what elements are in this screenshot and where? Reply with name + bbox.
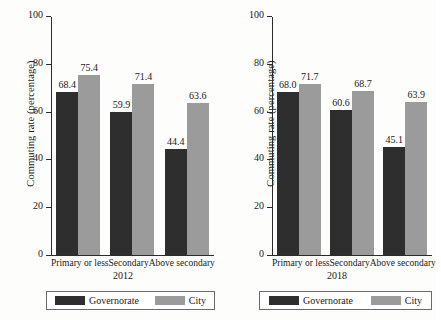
bar-column[interactable]: 44.4 <box>165 17 187 255</box>
bar-column[interactable]: 59.9 <box>110 17 132 255</box>
x-axis-category-label: Primary or less <box>51 258 109 268</box>
y-axis-tick-label: 60 <box>254 105 264 116</box>
legend-2012: GovernorateCity <box>46 291 215 310</box>
bar-governorate[interactable] <box>110 112 132 255</box>
y-axis-tick-label: 0 <box>38 248 43 259</box>
legend-label: City <box>189 295 206 306</box>
bar-value-label: 63.9 <box>408 89 426 100</box>
bar-column[interactable]: 75.4 <box>78 17 100 255</box>
bar-value-label: 60.6 <box>332 97 350 108</box>
bar-column[interactable]: 71.4 <box>132 17 154 255</box>
bar-group: 60.668.7 <box>330 17 374 255</box>
bar-value-label: 45.1 <box>386 134 404 145</box>
bar-value-label: 63.6 <box>189 90 207 101</box>
x-axis-category-label: Primary or less <box>272 258 330 268</box>
legend-label: Governorate <box>303 295 353 306</box>
legend-item-governorate[interactable]: Governorate <box>55 295 139 306</box>
y-axis-tick-label: 100 <box>28 9 43 20</box>
bar-value-label: 59.9 <box>113 99 131 110</box>
y-axis-tick-label: 40 <box>254 152 264 163</box>
x-axis-category-label: Above secondary <box>149 258 215 268</box>
bar-value-label: 75.4 <box>80 62 98 73</box>
y-axis-tick-label: 60 <box>33 105 43 116</box>
bar-column[interactable]: 68.7 <box>352 17 374 255</box>
bar-column[interactable]: 63.6 <box>187 17 209 255</box>
bar-groups: 68.475.459.971.444.463.6 <box>51 17 214 255</box>
bar-value-label: 71.7 <box>301 71 319 82</box>
legend-swatch-icon <box>155 296 185 305</box>
y-axis-tick: 0 <box>46 255 51 256</box>
y-axis-tick-label: 20 <box>33 200 43 211</box>
bar-governorate[interactable] <box>277 92 299 255</box>
x-axis-title: 2012 <box>14 270 232 281</box>
legend-item-city[interactable]: City <box>371 295 422 306</box>
x-axis-line <box>51 255 214 256</box>
legend-swatch-icon <box>55 296 85 305</box>
y-axis-tick-label: 80 <box>33 57 43 68</box>
x-axis-category-labels: Primary or lessSecondaryAbove secondary <box>51 258 214 268</box>
bar-city[interactable] <box>187 103 209 255</box>
bar-value-label: 68.4 <box>58 79 76 90</box>
x-axis-category-label: Secondary <box>109 258 149 268</box>
bar-city[interactable] <box>405 102 427 255</box>
legend-label: City <box>405 295 422 306</box>
y-axis-tick-label: 20 <box>254 200 264 211</box>
y-axis-tick-label: 100 <box>249 9 264 20</box>
x-axis-line <box>272 255 432 256</box>
bar-city[interactable] <box>299 84 321 255</box>
bar-value-label: 71.4 <box>135 71 153 82</box>
y-axis-tick-label: 0 <box>259 248 264 259</box>
bar-group: 68.071.7 <box>277 17 321 255</box>
bar-governorate[interactable] <box>383 147 405 255</box>
bar-group: 59.971.4 <box>110 17 154 255</box>
bar-column[interactable]: 68.4 <box>56 17 78 255</box>
bar-governorate[interactable] <box>56 92 78 255</box>
bar-column[interactable]: 60.6 <box>330 17 352 255</box>
bar-column[interactable]: 63.9 <box>405 17 427 255</box>
legend-item-governorate[interactable]: Governorate <box>269 295 353 306</box>
bar-city[interactable] <box>352 91 374 255</box>
bar-governorate[interactable] <box>330 110 352 255</box>
legend-item-city[interactable]: City <box>155 295 206 306</box>
bar-value-label: 44.4 <box>167 136 185 147</box>
y-axis-tick-label: 80 <box>254 57 264 68</box>
x-axis-title: 2018 <box>228 270 441 281</box>
bar-column[interactable]: 45.1 <box>383 17 405 255</box>
y-axis-tick-label: 40 <box>33 152 43 163</box>
x-axis-category-label: Above secondary <box>370 258 436 268</box>
x-axis-category-label: Secondary <box>330 258 370 268</box>
bar-governorate[interactable] <box>165 149 187 255</box>
legend-2018: GovernorateCity <box>259 291 432 310</box>
bar-column[interactable]: 71.7 <box>299 17 321 255</box>
legend-label: Governorate <box>89 295 139 306</box>
x-axis-category-labels: Primary or lessSecondaryAbove secondary <box>272 258 432 268</box>
legend-swatch-icon <box>371 296 401 305</box>
y-axis-tick: 0 <box>267 255 272 256</box>
bar-city[interactable] <box>132 84 154 255</box>
bar-groups: 68.071.760.668.745.163.9 <box>272 17 432 255</box>
legend-swatch-icon <box>269 296 299 305</box>
chart-panel-2012: Commuting rate (percentage) 020406080100… <box>0 0 218 320</box>
plot-area-2012: 020406080100 68.475.459.971.444.463.6 <box>51 17 214 256</box>
bar-city[interactable] <box>78 75 100 255</box>
plot-area-2018: 020406080100 68.071.760.668.745.163.9 <box>272 17 432 256</box>
bar-column[interactable]: 68.0 <box>277 17 299 255</box>
bar-group: 68.475.4 <box>56 17 100 255</box>
bar-group: 45.163.9 <box>383 17 427 255</box>
bar-group: 44.463.6 <box>165 17 209 255</box>
bar-value-label: 68.7 <box>354 78 372 89</box>
bar-value-label: 68.0 <box>279 79 297 90</box>
chart-panel-2018: Commuting rate (percentage) 020406080100… <box>218 0 436 320</box>
